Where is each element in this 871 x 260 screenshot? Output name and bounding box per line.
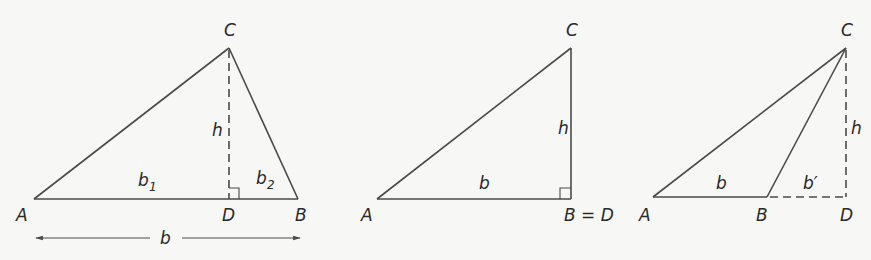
base-label: b	[716, 173, 727, 193]
figure-acute-triangle: C A D B h b 1 b 2 b	[15, 20, 307, 248]
b1-subscript: 1	[149, 180, 157, 194]
base-label: b	[160, 228, 171, 248]
vertex-b: B	[295, 205, 307, 225]
vertex-a: A	[638, 205, 651, 225]
right-angle-mark	[229, 188, 239, 199]
vertex-c: C	[224, 20, 236, 40]
b1-label: b	[138, 170, 149, 190]
height-label: h	[212, 120, 223, 140]
vertex-b: B	[756, 205, 768, 225]
vertex-b-equals-d: B = D	[564, 205, 614, 225]
triangle-height-diagram: C A D B h b 1 b 2 b C A B = D h b	[0, 0, 871, 260]
diagram-svg: C A D B h b 1 b 2 b C A B = D h b	[0, 0, 871, 260]
height-label: h	[558, 118, 569, 138]
b2-subscript: 2	[267, 178, 275, 192]
side-ac	[377, 48, 571, 199]
extension-label: b′	[803, 173, 818, 193]
vertex-a: A	[15, 205, 28, 225]
vertex-d: D	[840, 205, 853, 225]
vertex-a: A	[360, 205, 373, 225]
vertex-c: C	[566, 20, 578, 40]
figure-right-triangle: C A B = D h b	[360, 20, 614, 225]
figure-obtuse-triangle: C A B D h b b′	[638, 20, 862, 225]
base-label: b	[479, 173, 490, 193]
right-angle-mark	[560, 188, 571, 199]
b2-label: b	[256, 168, 267, 188]
side-ac	[34, 48, 229, 199]
height-label: h	[851, 118, 862, 138]
vertex-c: C	[841, 20, 853, 40]
vertex-d: D	[222, 205, 235, 225]
